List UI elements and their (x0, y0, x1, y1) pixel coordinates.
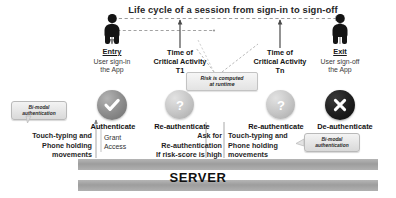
t1-line-2: Critical Activity (140, 57, 220, 66)
check-circle-icon (97, 90, 127, 120)
action-label-reauthenticate-t1: Re-authenticate (140, 122, 224, 131)
server-label: SERVER (0, 170, 396, 185)
bimodal-callout-entry: Bi-modal authentication (11, 101, 67, 120)
question-circle-icon-tn: ? (266, 90, 295, 119)
entry-modality-line-2: Phone holding (6, 141, 92, 151)
x-circle-icon (325, 90, 355, 120)
diagram-canvas: Life cycle of a session from sign-in to … (0, 0, 396, 198)
bimodal-callout-tn: Bi-modal authentication (304, 133, 360, 152)
critical-activity-tn-caption: Time of Critical Activity Tn (240, 48, 320, 75)
t1-detail-line-1: Ask for (126, 131, 222, 141)
risk-line-2: at runtime (191, 81, 253, 87)
question-circle-icon-t1: ? (165, 90, 194, 119)
tn-line-1: Time of (240, 48, 320, 57)
bimodal-tn-line-2: authentication (308, 143, 356, 149)
t1-line-1: Time of (140, 48, 220, 57)
tn-line-2: Critical Activity (240, 57, 320, 66)
exit-person-icon (329, 14, 351, 44)
server-bar-top (78, 159, 378, 170)
t1-detail-line-2: Re-authentication (126, 141, 222, 151)
diagram-title: Life cycle of a session from sign-in to … (118, 4, 348, 15)
entry-person-icon (101, 14, 123, 44)
entry-modality-line-1: Touch-typing and (6, 131, 92, 141)
critical-activity-t1-caption: Time of Critical Activity T1 (140, 48, 220, 75)
t1-detail-text: Ask for Re-authentication If risk-score … (126, 131, 222, 160)
action-label-deauthenticate: De-authenticate (302, 122, 388, 131)
svg-text:?: ? (176, 97, 184, 112)
svg-text:?: ? (277, 97, 285, 112)
bimodal-entry-line-2: authentication (15, 111, 63, 117)
risk-annotation: Risk is computed at runtime (186, 72, 258, 91)
entry-modality-text: Touch-typing and Phone holding movements (6, 131, 92, 160)
